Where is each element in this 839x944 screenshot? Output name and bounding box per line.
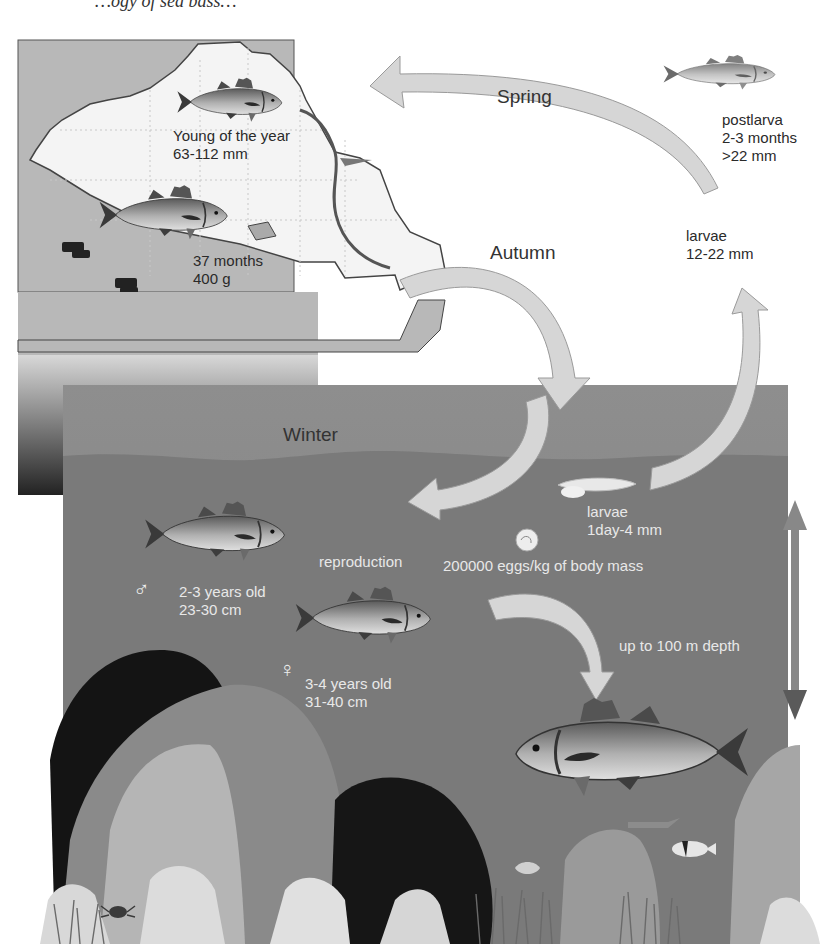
egg-icon — [516, 529, 538, 551]
young-of-year-label: Young of the year 63-112 mm — [173, 127, 290, 163]
larvae-late-label: larvae 12-22 mm — [686, 227, 754, 263]
female-label: 3-4 years old 31-40 cm — [305, 675, 392, 711]
season-label-spring: Spring — [497, 88, 552, 106]
cycle-arrow-icon — [370, 56, 718, 194]
reproduction-label: reproduction — [319, 553, 402, 571]
season-label-winter: Winter — [283, 426, 338, 444]
larvae-early-label: larvae 1day-4 mm — [587, 503, 662, 539]
postlarva-label: postlarva 2-3 months >22 mm — [722, 111, 797, 165]
depth-label: up to 100 m depth — [619, 637, 740, 655]
life-cycle-diagram — [0, 0, 839, 944]
juvenile-label: 37 months 400 g — [193, 252, 263, 288]
male-symbol-icon: ♂ — [133, 581, 150, 599]
female-symbol-icon: ♀ — [279, 661, 296, 679]
fish-icon — [664, 55, 775, 89]
season-label-autumn: Autumn — [490, 244, 555, 262]
eggs-label: 200000 eggs/kg of body mass — [443, 557, 643, 575]
male-label: 2-3 years old 23-30 cm — [179, 583, 266, 619]
